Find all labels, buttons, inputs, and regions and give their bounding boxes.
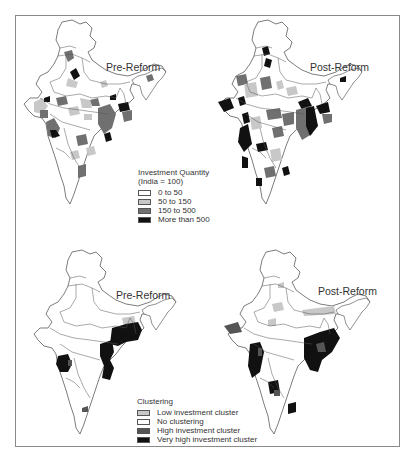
legend-swatch: [137, 419, 150, 425]
legend-label: No clustering: [157, 417, 204, 426]
legend-item: 0 to 50: [138, 188, 210, 197]
legend-title-line2: (India = 100): [138, 177, 210, 186]
legend-swatch: [137, 428, 150, 434]
legend-clustering: Clustering Low investment cluster No clu…: [137, 397, 257, 444]
legend-item: 150 to 500: [138, 206, 210, 215]
map-title-bottom-post: Post-Reform: [318, 285, 377, 297]
legend-label: Very high investment cluster: [157, 435, 257, 444]
legend-swatch: [137, 437, 150, 443]
legend-item: Low investment cluster: [137, 408, 257, 417]
legend-label: 50 to 150: [158, 197, 191, 206]
legend-item: More than 500: [138, 215, 210, 224]
legend-item: High investment cluster: [137, 426, 257, 435]
map-top-post-reform: [216, 18, 366, 213]
legend-label: High investment cluster: [157, 426, 240, 435]
legend-label: More than 500: [158, 215, 210, 224]
legend-title: Investment Quantity (India = 100): [138, 168, 210, 186]
legend-item: No clustering: [137, 417, 257, 426]
legend-investment-quantity: Investment Quantity (India = 100) 0 to 5…: [138, 168, 210, 224]
legend-swatch: [138, 217, 151, 223]
legend-swatch: [138, 208, 151, 214]
map-title-top-pre: Pre-Reform: [106, 61, 160, 73]
map-title-bottom-pre: Pre-Reform: [116, 289, 170, 301]
map-title-top-post: Post-Reform: [310, 61, 369, 73]
legend-label: 0 to 50: [158, 188, 182, 197]
legend-swatch: [137, 410, 150, 416]
legend-swatch: [138, 199, 151, 205]
legend-label: 150 to 500: [158, 206, 196, 215]
legend-title: Clustering: [137, 397, 257, 406]
legend-item: 50 to 150: [138, 197, 210, 206]
legend-swatch: [138, 190, 151, 196]
legend-label: Low investment cluster: [157, 408, 238, 417]
legend-item: Very high investment cluster: [137, 435, 257, 444]
legend-title-line1: Investment Quantity: [138, 168, 210, 177]
